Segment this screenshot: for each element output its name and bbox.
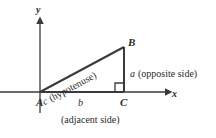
adjacent-side-note: (adjacent side) — [61, 115, 120, 125]
vertex-label-b: B — [128, 37, 135, 48]
x-axis-label: x — [172, 89, 177, 99]
y-axis-label: y — [36, 5, 40, 15]
vertex-label-c: C — [120, 97, 127, 108]
opposite-side-variable: a — [130, 68, 135, 79]
right-angle-marker — [115, 83, 124, 92]
adjacent-side-variable: b — [78, 98, 83, 108]
opposite-side-label: a(opposite side) — [130, 64, 197, 80]
triangle-diagram: y x A B C b c(hypotenuse) a(opposite sid… — [0, 0, 216, 138]
opposite-side-note: (opposite side) — [138, 68, 197, 79]
